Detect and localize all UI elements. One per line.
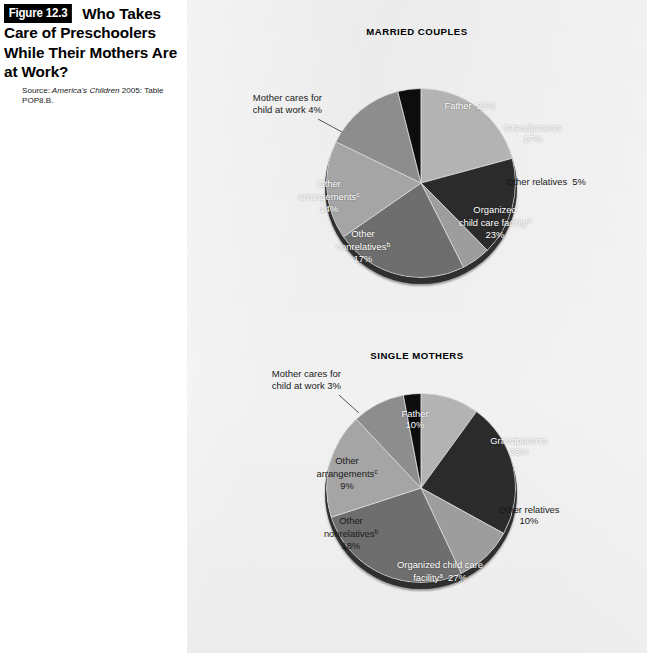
source-publication: America's Children [52,86,120,95]
pie-chart-single-mothers: SINGLE MOTHERS Father 10% Grandparents 2… [187,320,647,653]
slice-label-grandparents: Grandparents 23% [469,435,569,458]
chart-title-married-couples: MARRIED COUPLES [187,26,647,37]
callout-leader-line-single [337,386,377,420]
figure-number-badge: Figure 12.3 [4,4,72,23]
caption-column: Figure 12.3Who Takes Care of Preschooler… [0,0,187,653]
chart-panel: MARRIED COUPLES Father 21% Grandparents … [187,0,647,653]
chart-title-single-mothers: SINGLE MOTHERS [187,350,647,361]
slice-label-other-nonrelatives: Other nonrelativesb 17% [317,228,409,264]
callout-mother-cares-single: Mother cares for child at work 3% [221,368,341,391]
callout-mother-cares-married: Mother cares for child at work 4% [207,92,322,115]
source-label: Source: [22,86,50,95]
slice-label-other-arrangements: Other arrangementsc 14% [279,178,379,214]
slice-label-other-nonrelatives: Other nonrelativesb 18% [304,515,398,551]
slice-label-father: Father 21% [425,100,515,111]
slice-label-organized-child-care-line2: child care facilitya [435,215,555,228]
slice-label-other-relatives: Other relatives 5% [486,176,606,187]
slice-label-father: Father 10% [380,408,450,431]
slice-label-organized-child-care: Organized child care facilitya 27% [365,559,515,584]
pie-chart-married-couples: MARRIED COUPLES Father 21% Grandparents … [187,0,647,320]
callout-leader-line-married [317,110,357,140]
slice-label-other-arrangements: Other arrangementsc 9% [297,455,397,491]
figure-title-block: Figure 12.3Who Takes Care of Preschooler… [4,4,184,82]
slice-label-grandparents: Grandparents 17% [490,122,576,145]
slice-label-other-relatives: Other relatives 10% [480,504,578,527]
slice-label-organized-child-care: Organized child care facilitya 23% [435,204,555,240]
figure-source-note: Source: America's Children 2005: Table P… [22,86,182,107]
